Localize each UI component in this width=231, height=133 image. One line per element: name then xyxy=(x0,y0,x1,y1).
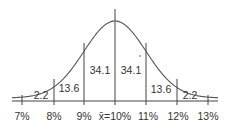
normal-distribution-chart: 2.2 13.6 34.1 34.1 13.6 2.2 7% 8% 9% x̄=… xyxy=(0,0,231,133)
region-label-11-12: 13.6 xyxy=(151,83,172,95)
region-label-8-9: 13.6 xyxy=(59,82,80,94)
region-label-9-10: 34.1 xyxy=(90,64,111,76)
x-tick-label-11: 11% xyxy=(138,110,158,122)
x-tick-label-mean: x̄=10% xyxy=(99,110,131,122)
x-tick-label-9: 9% xyxy=(76,110,91,122)
x-tick-label-7: 7% xyxy=(14,110,29,122)
x-tick-label-13: 13% xyxy=(197,110,218,122)
region-label-12-13: 2.2 xyxy=(183,89,198,101)
x-tick-label-12: 12% xyxy=(167,110,188,122)
region-label-7-8: 2.2 xyxy=(34,89,49,101)
x-tick-label-8: 8% xyxy=(46,110,61,122)
region-label-10-11: 34.1 xyxy=(121,64,142,76)
